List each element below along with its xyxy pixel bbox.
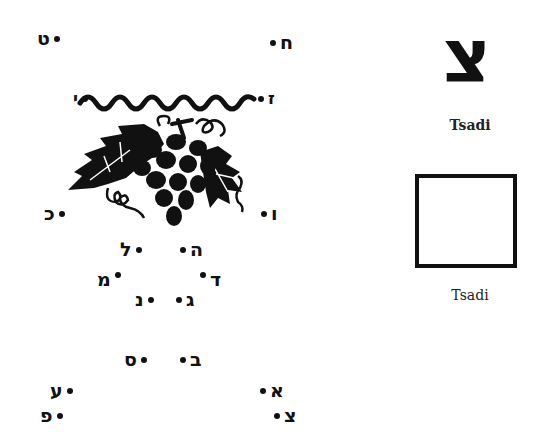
grape-cluster-illustration bbox=[60, 80, 290, 230]
dot bbox=[200, 272, 206, 278]
point-he: ה bbox=[180, 240, 203, 259]
point-samekh: ס bbox=[124, 350, 147, 369]
tendril-top-right bbox=[196, 119, 225, 136]
dot bbox=[67, 388, 73, 394]
letter-ayin: ע bbox=[50, 381, 63, 400]
tendril-top-left bbox=[158, 116, 170, 126]
letter-samekh: ס bbox=[124, 350, 137, 369]
point-mem: מ bbox=[97, 270, 121, 289]
point-nun: נ bbox=[135, 290, 154, 309]
point-tsadi: צ bbox=[274, 406, 296, 425]
dot bbox=[57, 413, 63, 419]
grapes bbox=[133, 134, 216, 226]
letter-gimel: ג bbox=[186, 290, 195, 309]
dot bbox=[274, 413, 280, 419]
dot bbox=[270, 40, 276, 46]
dot bbox=[136, 247, 142, 253]
wavy-line bbox=[80, 97, 254, 109]
tsadi-letter-display: צ bbox=[432, 18, 502, 92]
practice-caption: Tsadi bbox=[420, 287, 520, 303]
letter-mem: מ bbox=[97, 270, 111, 289]
dot bbox=[180, 357, 186, 363]
letter-het: ח bbox=[280, 33, 293, 52]
dot bbox=[180, 247, 186, 253]
point-lamed: ל bbox=[120, 240, 142, 259]
point-pe: פ bbox=[40, 406, 63, 425]
tendril-right bbox=[236, 176, 242, 212]
point-bet: ב bbox=[180, 350, 202, 369]
point-dalet: ד bbox=[200, 270, 221, 289]
tendril-bottom-left bbox=[107, 188, 144, 218]
dot bbox=[148, 297, 154, 303]
letter-kaf: כ bbox=[44, 204, 55, 223]
dot bbox=[141, 357, 147, 363]
letter-tsadi: צ bbox=[284, 406, 296, 425]
point-tet: ט bbox=[37, 29, 60, 48]
dot bbox=[54, 36, 60, 42]
letter-caption: Tsadi bbox=[420, 117, 520, 133]
letter-dalet: ד bbox=[210, 270, 221, 289]
point-gimel: ג bbox=[176, 290, 195, 309]
letter-tet: ט bbox=[37, 29, 50, 48]
letter-alef: א bbox=[270, 381, 284, 400]
practice-writing-box[interactable] bbox=[415, 174, 517, 268]
letter-he: ה bbox=[190, 240, 203, 259]
letter-bet: ב bbox=[190, 350, 202, 369]
point-ayin: ע bbox=[50, 381, 73, 400]
dot bbox=[115, 272, 121, 278]
point-alef: א bbox=[260, 381, 284, 400]
letter-pe: פ bbox=[40, 406, 53, 425]
letter-lamed: ל bbox=[120, 240, 132, 259]
dot bbox=[260, 388, 266, 394]
point-het: ח bbox=[270, 33, 293, 52]
dot bbox=[176, 297, 182, 303]
letter-nun: נ bbox=[135, 290, 144, 309]
